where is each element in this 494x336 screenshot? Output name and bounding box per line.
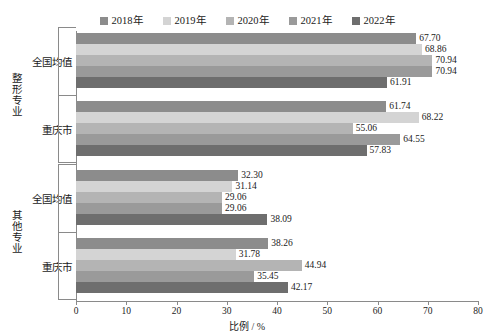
bar[interactable]: [76, 112, 419, 123]
x-axis-label: 比例 / %: [0, 318, 494, 333]
x-tick-30: [227, 301, 228, 305]
legend-item-2022年[interactable]: 2022年: [352, 16, 395, 27]
bar[interactable]: [76, 123, 353, 134]
bar-value-label: 70.94: [435, 55, 456, 66]
legend-item-2019年[interactable]: 2019年: [163, 16, 206, 27]
group-tick: [58, 27, 76, 28]
legend-item-2021年[interactable]: 2021年: [289, 16, 332, 27]
bar[interactable]: [76, 55, 432, 66]
legend-swatch-icon: [289, 17, 297, 25]
bar[interactable]: [76, 44, 422, 55]
bar[interactable]: [76, 170, 238, 181]
bar-value-label: 61.74: [389, 101, 410, 112]
x-tick-label-60: 60: [373, 306, 383, 316]
bar-value-label: 38.26: [271, 238, 292, 249]
legend-item-2020年[interactable]: 2020年: [226, 16, 269, 27]
group-axis-label: 整形专业: [8, 27, 24, 162]
bar-value-label: 44.94: [305, 260, 326, 271]
bar[interactable]: [76, 238, 268, 249]
bar[interactable]: [76, 271, 254, 282]
bar-value-label: 64.55: [403, 134, 424, 145]
bar[interactable]: [76, 192, 222, 203]
bar[interactable]: [76, 181, 232, 192]
bar[interactable]: [76, 282, 288, 293]
x-tick-label-10: 10: [122, 306, 132, 316]
legend-item-label: 2020年: [238, 16, 269, 27]
bar[interactable]: [76, 145, 367, 156]
legend-swatch-icon: [163, 17, 171, 25]
legend-item-label: 2021年: [301, 16, 332, 27]
x-tick-0: [76, 301, 77, 305]
bar[interactable]: [76, 260, 302, 271]
group-mid-tick: [58, 232, 76, 233]
x-tick-label-30: 30: [222, 306, 232, 316]
group-tick: [58, 164, 76, 165]
bar-chart: 2018年2019年2020年2021年2022年 01020304050607…: [0, 0, 494, 336]
x-tick-50: [327, 301, 328, 305]
x-tick-label-70: 70: [423, 306, 433, 316]
bar[interactable]: [76, 249, 236, 260]
bar-value-label: 31.78: [239, 249, 260, 260]
x-tick-label-0: 0: [74, 306, 79, 316]
bar[interactable]: [76, 66, 432, 77]
bar-value-label: 32.30: [241, 170, 262, 181]
x-tick-80: [478, 301, 479, 305]
legend-item-label: 2019年: [175, 16, 206, 27]
legend-swatch-icon: [100, 17, 108, 25]
bar[interactable]: [76, 203, 222, 214]
x-tick-label-80: 80: [473, 306, 483, 316]
bar[interactable]: [76, 33, 416, 44]
legend-item-2018年[interactable]: 2018年: [100, 16, 143, 27]
group-axis-label: 其他专业: [8, 164, 24, 299]
group-tick: [58, 162, 76, 163]
legend-swatch-icon: [352, 17, 360, 25]
x-tick-60: [378, 301, 379, 305]
x-tick-10: [126, 301, 127, 305]
bar-value-label: 68.22: [422, 112, 443, 123]
bar[interactable]: [76, 77, 387, 88]
legend-swatch-icon: [226, 17, 234, 25]
x-tick-label-50: 50: [323, 306, 333, 316]
bar-value-label: 67.70: [419, 33, 440, 44]
bar-value-label: 35.45: [257, 271, 278, 282]
bar-value-label: 61.91: [390, 77, 411, 88]
bar-value-label: 29.06: [225, 203, 246, 214]
x-tick-label-40: 40: [272, 306, 282, 316]
x-tick-20: [177, 301, 178, 305]
x-tick-70: [428, 301, 429, 305]
bar-value-label: 68.86: [425, 44, 446, 55]
x-tick-label-20: 20: [172, 306, 182, 316]
x-tick-40: [277, 301, 278, 305]
bar-value-label: 38.09: [270, 214, 291, 225]
bar[interactable]: [76, 101, 386, 112]
bar[interactable]: [76, 214, 267, 225]
bar-value-label: 70.94: [435, 66, 456, 77]
bar-value-label: 42.17: [291, 282, 312, 293]
bar-value-label: 57.83: [370, 145, 391, 156]
legend-item-label: 2022年: [364, 16, 395, 27]
bar-value-label: 55.06: [356, 123, 377, 134]
group-tick: [58, 299, 76, 300]
bar-value-label: 29.06: [225, 192, 246, 203]
legend-item-label: 2018年: [112, 16, 143, 27]
bar-value-label: 31.14: [235, 181, 256, 192]
group-mid-tick: [58, 95, 76, 96]
bar[interactable]: [76, 134, 400, 145]
